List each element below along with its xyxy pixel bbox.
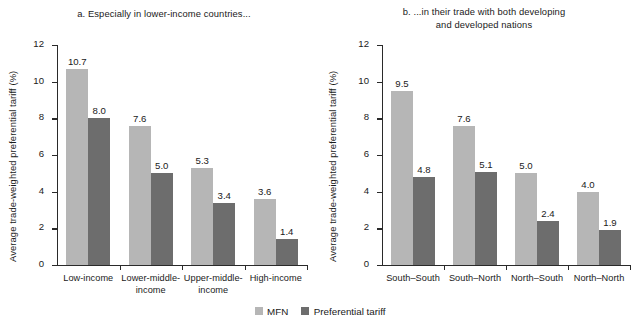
bar-value-label: 7.6 (133, 113, 146, 124)
panel-b-y-tick: 0 (377, 265, 382, 266)
panel-a-x-tick (307, 265, 308, 270)
bar-value-label: 8.0 (93, 105, 106, 116)
bar-group: 5.02.4 (515, 45, 559, 265)
panel-b-y-tick-label: 8 (364, 111, 369, 122)
panel-a-y-tick-label: 10 (33, 75, 44, 86)
bar-mfn: 4.0 (577, 192, 599, 265)
panel-b-y-axis-label: Average trade-weighted preferential tari… (327, 71, 338, 262)
panel-b-y-tick: 8 (377, 118, 382, 119)
panel-a-y-tick-label: 4 (39, 185, 44, 196)
panel-a-y-tick-label: 0 (39, 258, 44, 269)
panel-a-y-tick: 12 (52, 45, 57, 46)
bar-preferential-tariff: 4.8 (413, 177, 435, 265)
x-axis-category-label: Lower-middle- income (120, 273, 183, 296)
panel-a-y-axis-line (57, 45, 58, 265)
bar-mfn: 7.6 (453, 126, 475, 265)
panel-b-title: b. ...in their trade with both developin… (338, 6, 630, 31)
panel-a-y-tick-label: 2 (39, 221, 44, 232)
bar-group: 9.54.8 (391, 45, 435, 265)
bar-value-label: 5.0 (155, 160, 168, 171)
legend-item-label: MFN (267, 306, 288, 317)
panel-a-plot-area: 02468101210.78.0Low-income7.65.0Lower-mi… (57, 45, 307, 265)
panel-b-y-axis-line (382, 45, 383, 265)
x-axis-category-label: Low-income (57, 273, 120, 285)
panel-b-x-tick (630, 265, 631, 270)
bar-value-label: 5.0 (519, 160, 532, 171)
x-axis-category-label: South–North (444, 273, 506, 285)
preferential-tariff-swatch (301, 307, 309, 315)
panel-a-y-axis-label: Average trade-weighted preferential tari… (7, 71, 18, 262)
bar-value-label: 10.7 (68, 56, 87, 67)
panel-b-plot-area: 0246810129.54.8South–South7.65.1South–No… (382, 45, 630, 265)
x-axis-category-label: High-income (245, 273, 308, 285)
bar-preferential-tariff: 5.0 (151, 173, 173, 265)
bar-preferential-tariff: 8.0 (88, 118, 110, 265)
panel-b-y-tick-label: 6 (364, 148, 369, 159)
x-axis-category-label: Upper-middle- income (182, 273, 245, 296)
x-axis-category-label: North–North (568, 273, 630, 285)
figure-container: a. Especially in lower-income countries.… (0, 0, 640, 327)
x-axis-category-label: North–South (506, 273, 568, 285)
bar-value-label: 4.8 (417, 164, 430, 175)
x-axis-category-label: South–South (382, 273, 444, 285)
bar-preferential-tariff: 1.9 (599, 230, 621, 265)
panel-b-y-tick-label: 2 (364, 221, 369, 232)
panel-a-x-tick (245, 265, 246, 270)
panel-b-y-tick-label: 4 (364, 185, 369, 196)
bar-group: 3.61.4 (254, 45, 298, 265)
chart-panel-b: b. ...in their trade with both developin… (320, 0, 640, 300)
panel-a-y-tick: 6 (52, 155, 57, 156)
mfn-swatch (255, 307, 263, 315)
bar-group: 10.78.0 (66, 45, 110, 265)
legend-item[interactable]: MFN (255, 306, 289, 317)
panel-a-y-tick-label: 12 (33, 38, 44, 49)
bar-mfn: 7.6 (129, 126, 151, 265)
bar-group: 5.33.4 (191, 45, 235, 265)
bar-preferential-tariff: 3.4 (213, 203, 235, 265)
panel-b-y-tick: 4 (377, 192, 382, 193)
legend-item-label: Preferential tariff (314, 306, 386, 317)
bar-mfn: 3.6 (254, 199, 276, 265)
bar-mfn: 5.0 (515, 173, 537, 265)
panel-a-x-tick (120, 265, 121, 270)
panel-b-y-tick: 2 (377, 228, 382, 229)
bar-group: 4.01.9 (577, 45, 621, 265)
bar-value-label: 5.1 (479, 159, 492, 170)
panel-b-x-tick (568, 265, 569, 270)
panel-b-x-tick (506, 265, 507, 270)
panel-a-y-tick: 4 (52, 192, 57, 193)
panel-b-y-tick-label: 10 (358, 75, 369, 86)
panel-b-x-tick (444, 265, 445, 270)
bar-mfn: 5.3 (191, 168, 213, 265)
bar-value-label: 1.4 (280, 226, 293, 237)
panel-a-y-tick-label: 8 (39, 111, 44, 122)
bar-value-label: 2.4 (541, 208, 554, 219)
bar-value-label: 1.9 (603, 217, 616, 228)
panel-b-y-tick: 10 (377, 82, 382, 83)
panel-a-y-tick-label: 6 (39, 148, 44, 159)
bar-group: 7.65.1 (453, 45, 497, 265)
panel-b-y-tick-label: 0 (364, 258, 369, 269)
panel-a-title: a. Especially in lower-income countries.… (18, 8, 310, 21)
panel-b-y-tick: 6 (377, 155, 382, 156)
bar-preferential-tariff: 1.4 (276, 239, 298, 265)
bar-mfn: 10.7 (66, 69, 88, 265)
bar-value-label: 5.3 (196, 155, 209, 166)
panel-b-y-tick-label: 12 (358, 38, 369, 49)
panel-a-y-tick: 0 (52, 265, 57, 266)
panel-a-y-tick: 10 (52, 82, 57, 83)
bar-value-label: 7.6 (457, 113, 470, 124)
panel-a-y-tick: 8 (52, 118, 57, 119)
legend-item[interactable]: Preferential tariff (301, 306, 385, 317)
panel-b-y-tick: 12 (377, 45, 382, 46)
bar-group: 7.65.0 (129, 45, 173, 265)
bar-value-label: 3.4 (218, 190, 231, 201)
bar-value-label: 9.5 (395, 78, 408, 89)
bar-preferential-tariff: 5.1 (475, 172, 497, 266)
panel-a-x-tick (182, 265, 183, 270)
bar-preferential-tariff: 2.4 (537, 221, 559, 265)
panel-a-y-tick: 2 (52, 228, 57, 229)
bar-value-label: 4.0 (581, 179, 594, 190)
chart-legend: MFNPreferential tariff (0, 300, 640, 322)
bar-value-label: 3.6 (258, 186, 271, 197)
